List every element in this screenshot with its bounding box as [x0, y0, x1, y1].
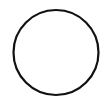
circle-outline-icon — [0, 0, 112, 112]
canvas — [0, 0, 112, 112]
circle — [14, 10, 99, 95]
